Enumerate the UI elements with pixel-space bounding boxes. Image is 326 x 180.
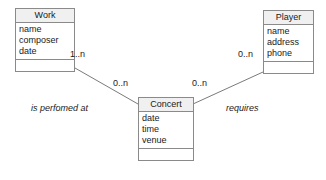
attribute: phone: [267, 48, 313, 59]
cardinality-concert-right: 0..n: [192, 78, 207, 88]
attribute: address: [267, 37, 313, 48]
connector-work-concert: [75, 68, 138, 104]
entity-concert-attributes: date time venue: [139, 112, 193, 149]
entity-player-operations: [264, 62, 313, 73]
entity-player[interactable]: Player name address phone: [263, 10, 314, 74]
cardinality-work-side: 1..n: [70, 49, 85, 59]
attribute: date: [142, 113, 193, 124]
entity-work-operations: [16, 60, 74, 71]
entity-work[interactable]: Work name composer date: [15, 8, 75, 72]
cardinality-player-side: 0..n: [238, 49, 253, 59]
er-diagram: Work name composer date Player name addr…: [0, 0, 326, 180]
entity-work-attributes: name composer date: [16, 23, 74, 60]
entity-work-title: Work: [16, 9, 74, 23]
connector-concert-player: [193, 72, 263, 104]
entity-concert[interactable]: Concert date time venue: [138, 97, 194, 161]
relationship-label-requires: requires: [226, 103, 259, 113]
cardinality-concert-left: 0..n: [113, 78, 128, 88]
attribute: name: [267, 26, 313, 37]
attribute: date: [19, 46, 74, 57]
attribute: venue: [142, 135, 193, 146]
attribute: time: [142, 124, 193, 135]
entity-player-title: Player: [264, 11, 313, 25]
entity-concert-operations: [139, 149, 193, 160]
attribute: composer: [19, 35, 74, 46]
entity-concert-title: Concert: [139, 98, 193, 112]
attribute: name: [19, 24, 74, 35]
relationship-label-is-performed-at: is perfomed at: [31, 103, 88, 113]
entity-player-attributes: name address phone: [264, 25, 313, 62]
